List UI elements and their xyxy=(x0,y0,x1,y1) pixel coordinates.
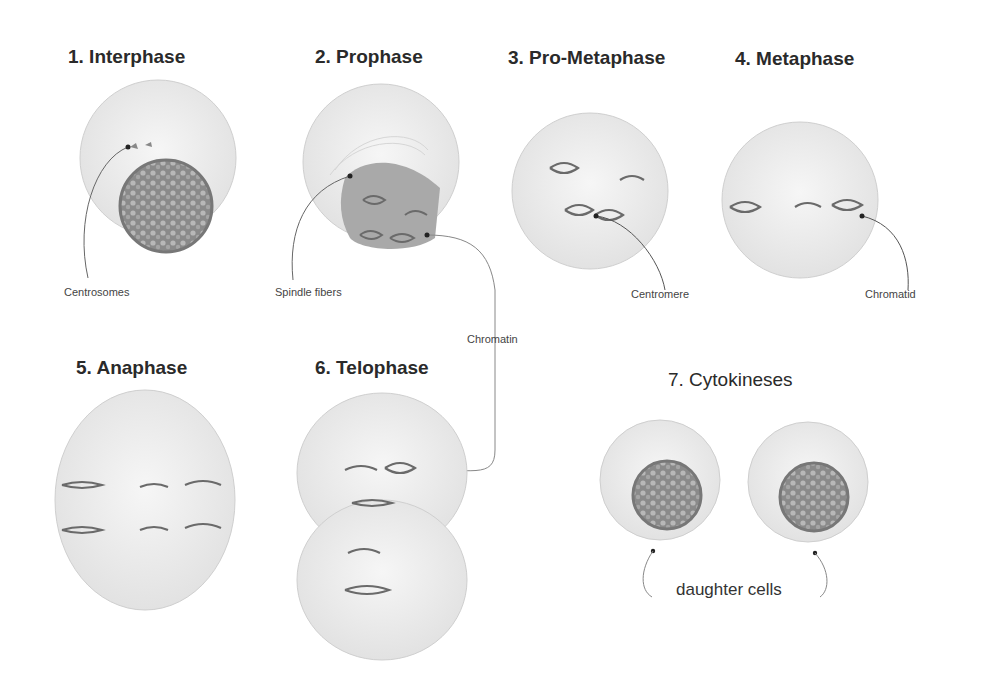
stage-title-cytokinesis: 7. Cytokineses xyxy=(668,369,793,391)
cell-prometaphase xyxy=(512,113,668,290)
label-chromatid: Chromatid xyxy=(865,288,916,300)
stage-title-anaphase: 5. Anaphase xyxy=(76,357,187,379)
cell-interphase xyxy=(80,80,236,278)
label-daughter-cells: daughter cells xyxy=(676,580,782,600)
stage-title-prophase: 2. Prophase xyxy=(315,46,423,68)
cell-telophase xyxy=(297,393,467,660)
stage-title-metaphase: 4. Metaphase xyxy=(735,48,854,70)
stage-title-prometaphase: 3. Pro-Metaphase xyxy=(508,47,665,69)
cell-prophase xyxy=(292,84,459,280)
cell-anaphase xyxy=(55,390,235,610)
cell-metaphase xyxy=(722,122,908,290)
label-spindle-fibers: Spindle fibers xyxy=(275,286,342,298)
cell-cytokinesis xyxy=(600,420,868,597)
label-centromere: Centromere xyxy=(631,288,689,300)
label-centrosomes: Centrosomes xyxy=(64,286,129,298)
label-chromatin: Chromatin xyxy=(467,333,518,345)
stage-title-interphase: 1. Interphase xyxy=(68,46,185,68)
mitosis-illustration xyxy=(0,0,990,698)
stage-title-telophase: 6. Telophase xyxy=(315,357,429,379)
